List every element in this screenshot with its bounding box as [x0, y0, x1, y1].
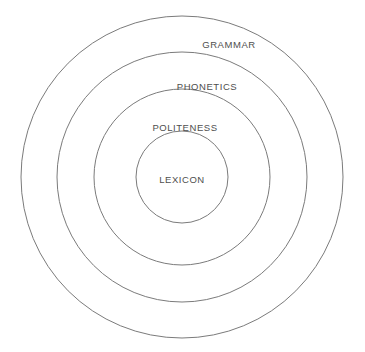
- concentric-circles-diagram: GRAMMAR PHONETICS POLITENESS LEXICON: [0, 0, 365, 352]
- label-politeness: POLITENESS: [152, 123, 217, 133]
- label-phonetics: PHONETICS: [177, 82, 237, 92]
- label-lexicon: LEXICON: [159, 175, 205, 185]
- label-grammar: GRAMMAR: [202, 40, 255, 50]
